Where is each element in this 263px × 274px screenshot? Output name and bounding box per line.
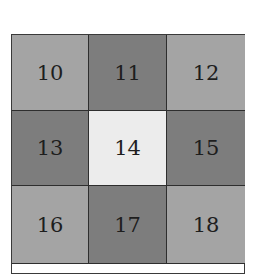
grid-cell-18: 18 xyxy=(167,186,245,264)
cell-value: 16 xyxy=(37,213,64,237)
cell-value: 11 xyxy=(114,61,141,85)
cell-value: 12 xyxy=(193,61,220,85)
cell-value: 14 xyxy=(114,136,141,160)
cell-value: 15 xyxy=(193,136,220,160)
pixel-grid: 10 11 12 13 14 15 16 17 18 xyxy=(11,34,245,274)
grid-cell-13: 13 xyxy=(12,111,89,186)
grid-cell-12: 12 xyxy=(167,35,245,111)
grid-cell-15: 15 xyxy=(167,111,245,186)
grid-cell-14-center: 14 xyxy=(89,111,167,186)
grid-cell-16: 16 xyxy=(12,186,89,264)
cell-value: 10 xyxy=(37,61,64,85)
cell-value: 18 xyxy=(193,213,220,237)
grid-cell-10: 10 xyxy=(12,35,89,111)
cell-value: 13 xyxy=(37,136,64,160)
cell-value: 17 xyxy=(114,213,141,237)
grid-cell-17: 17 xyxy=(89,186,167,264)
grid-cell-11: 11 xyxy=(89,35,167,111)
